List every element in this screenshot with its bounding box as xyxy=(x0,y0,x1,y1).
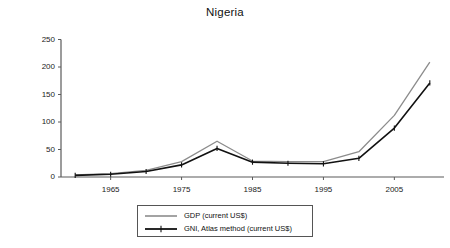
x-tick-label: 1995 xyxy=(303,186,343,194)
series-line-gdp xyxy=(75,62,430,175)
y-tick-label: 0 xyxy=(25,173,55,181)
chart-legend: GDP (current US$) GNI, Atlas method (cur… xyxy=(137,205,313,237)
y-tick-label: 50 xyxy=(25,146,55,154)
x-tick-label: 1985 xyxy=(233,186,273,194)
y-tick-label: 150 xyxy=(25,91,55,99)
legend-label-gni: GNI, Atlas method (current US$) xyxy=(184,224,292,233)
legend-label-gdp: GDP (current US$) xyxy=(184,211,247,220)
y-tick-label: 200 xyxy=(25,63,55,71)
chart-container: Nigeria 050100150200250 1965197519851995… xyxy=(0,0,450,248)
legend-swatch-gni-icon xyxy=(144,224,178,234)
legend-swatch-gdp-icon xyxy=(144,211,178,221)
series-layer xyxy=(75,62,430,178)
legend-item-gni: GNI, Atlas method (current US$) xyxy=(144,222,292,235)
x-tick-label: 1965 xyxy=(91,186,131,194)
legend-item-gdp: GDP (current US$) xyxy=(144,209,247,222)
y-tick-label: 250 xyxy=(25,36,55,44)
y-tick-label: 100 xyxy=(25,118,55,126)
x-tick-label: 2005 xyxy=(374,186,414,194)
x-tick-label: 1975 xyxy=(162,186,202,194)
